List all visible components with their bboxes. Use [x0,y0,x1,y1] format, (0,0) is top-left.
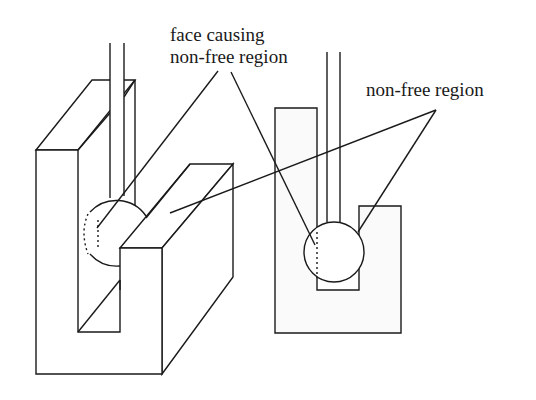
ball-upper-arc [90,200,146,216]
3d-shaft [110,43,124,199]
label-face-causing-line2: non-free region [170,46,288,67]
label-non-free-region: non-free region [366,79,484,100]
2d-u-block [275,108,401,333]
label-face-causing-line1: face causing [170,24,265,45]
shaft-body [110,43,124,199]
ball-hidden-outline [84,214,88,254]
diagram-canvas: face causing non-free region non-free re… [0,0,536,400]
channel-floor-edge [78,280,120,332]
ball-lower-arc [90,254,120,266]
2d-u-outline [275,108,401,333]
2d-ball [304,222,364,282]
2d-ball-circle [304,222,364,282]
3d-u-block [36,80,233,374]
2d-shaft [327,52,340,222]
